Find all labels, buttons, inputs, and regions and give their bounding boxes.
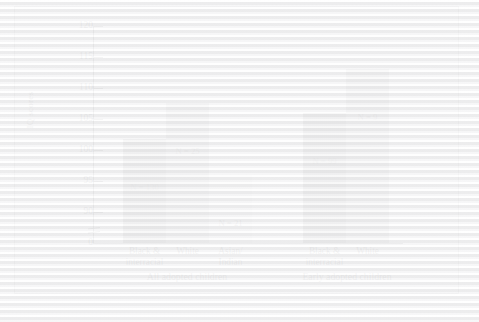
y-axis-line xyxy=(93,26,94,243)
y-tick-label: 105 xyxy=(37,114,93,124)
y-tick-label: 100 xyxy=(37,145,93,155)
y-tick-label: 95 xyxy=(37,176,93,186)
y-tick-label: 120 xyxy=(37,21,93,31)
group-label-2: Early adopted children xyxy=(267,271,427,282)
category-label-line2: interracial xyxy=(123,257,166,268)
y-tick-label: 115 xyxy=(37,52,93,62)
bar-5: N = 9 xyxy=(346,69,389,243)
y-tick-label-text: 0 xyxy=(45,238,93,247)
axis-break-icon xyxy=(88,226,100,235)
y-tick-label-text: 100 xyxy=(45,145,93,154)
x-axis-baseline xyxy=(93,243,403,244)
y-tick-mark xyxy=(94,181,103,182)
y-tick-label-text: 115 xyxy=(45,52,93,61)
y-tick-mark xyxy=(94,150,103,151)
y-tick-label: 90 xyxy=(37,207,93,217)
y-tick-label: 110 xyxy=(37,83,93,93)
group-label-1: All adopted children xyxy=(107,271,267,282)
y-tick-label-text: 120 xyxy=(45,21,93,30)
y-axis-title: IQ scores xyxy=(25,74,35,146)
category-label-line1: Black & xyxy=(123,246,166,257)
bar-n-label: N = 130 xyxy=(123,182,166,192)
bar-1: N = 130 xyxy=(123,139,166,243)
y-tick-mark xyxy=(94,212,103,213)
bar-n-label: N = 25 xyxy=(166,146,209,156)
category-label-2: White xyxy=(166,246,209,257)
y-tick-label-text: 95 xyxy=(45,176,93,185)
category-label-line1: Asian/ xyxy=(209,246,252,257)
bar-n-label: N = 9 xyxy=(346,112,389,122)
y-tick-label: 0 xyxy=(37,238,93,248)
y-tick-mark xyxy=(94,243,103,244)
category-label-3: Asian/Indian xyxy=(209,246,252,268)
y-tick-label-text: 110 xyxy=(45,83,93,92)
bar-4: N = 99 xyxy=(303,113,346,243)
category-label-line2: Indian xyxy=(209,257,252,268)
y-tick-label-text: 90 xyxy=(45,207,93,216)
category-label-1: Black &interracial xyxy=(123,246,166,268)
category-label-line1: Black & xyxy=(303,246,346,257)
chart-page: IQ scores 12011511010510095900 N = 130N … xyxy=(0,0,479,322)
category-label-4: Black &interracial xyxy=(303,246,346,268)
bar-3: N = 21 xyxy=(209,175,252,243)
category-label-5: White xyxy=(346,246,389,257)
chart-frame: IQ scores 12011511010510095900 N = 130N … xyxy=(14,6,459,294)
y-tick-mark xyxy=(94,57,103,58)
bar-2: N = 25 xyxy=(166,103,209,243)
plot-area: IQ scores 12011511010510095900 N = 130N … xyxy=(15,7,460,295)
y-tick-mark xyxy=(94,26,103,27)
category-label-line2: interracial xyxy=(303,257,346,268)
bar-n-label: N = 21 xyxy=(209,218,252,228)
category-label-line1: White xyxy=(166,246,209,257)
bar-n-label: N = 99 xyxy=(303,156,346,166)
y-tick-mark xyxy=(94,119,103,120)
y-tick-label-text: 105 xyxy=(45,114,93,123)
category-label-line1: White xyxy=(346,246,389,257)
y-tick-mark xyxy=(94,88,103,89)
